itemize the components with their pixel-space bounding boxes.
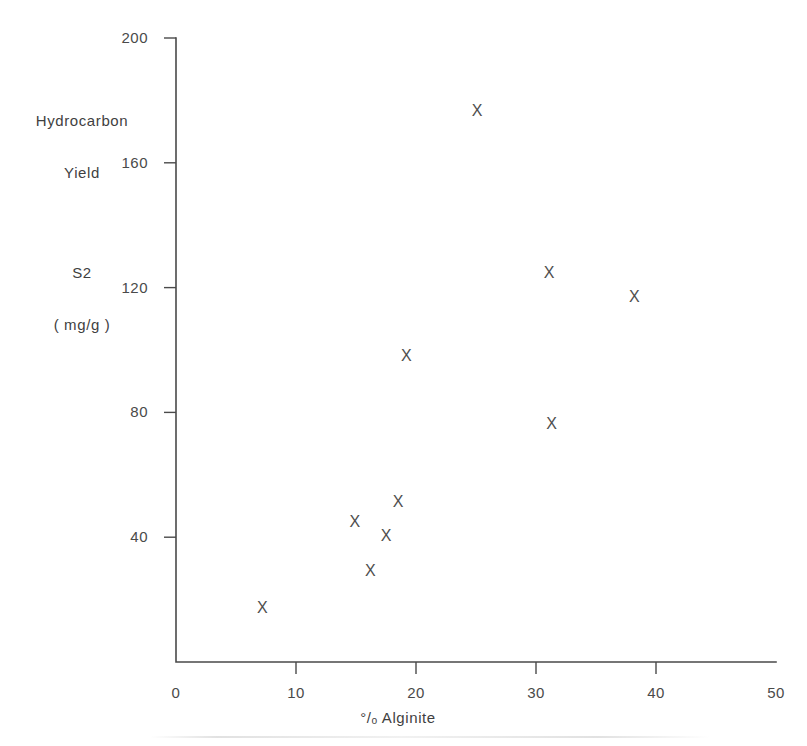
axes [176, 38, 776, 662]
x-tick-label: 30 [527, 684, 545, 701]
data-point-marker: X [365, 562, 376, 579]
y-tick-label: 80 [130, 403, 148, 420]
data-point-marker: X [381, 527, 392, 544]
x-tick-label: 10 [287, 684, 305, 701]
x-tick-label: 0 [172, 684, 181, 701]
axis-spines [176, 38, 776, 662]
data-point-marker: X [546, 415, 557, 432]
scatter-plot-figure: Hydrocarbon Yield S2 ( mg/g ) 4080120160… [0, 0, 807, 746]
data-point-marker: X [544, 264, 555, 281]
x-tick-label: 20 [407, 684, 425, 701]
data-point-marker: X [349, 513, 360, 530]
scan-artifact-line [150, 736, 710, 738]
y-tick-label: 160 [121, 154, 148, 171]
y-axis-ticks: 4080120160200 [121, 29, 176, 545]
data-point-marker: X [472, 102, 483, 119]
data-point-marker: X [393, 493, 404, 510]
data-point-marker: X [401, 347, 412, 364]
x-axis-title: °/ₒ Alginite [360, 709, 436, 726]
x-tick-label: 40 [647, 684, 665, 701]
y-tick-label: 120 [121, 279, 148, 296]
y-tick-label: 40 [130, 528, 148, 545]
data-points: XXXXXXXXXX [257, 102, 640, 616]
data-point-marker: X [629, 288, 640, 305]
plot-canvas: 4080120160200 01020304050 XXXXXXXXXX °/ₒ… [0, 0, 807, 746]
y-tick-label: 200 [121, 29, 148, 46]
x-tick-label: 50 [767, 684, 785, 701]
x-axis-ticks: 01020304050 [172, 662, 785, 701]
data-point-marker: X [257, 599, 268, 616]
